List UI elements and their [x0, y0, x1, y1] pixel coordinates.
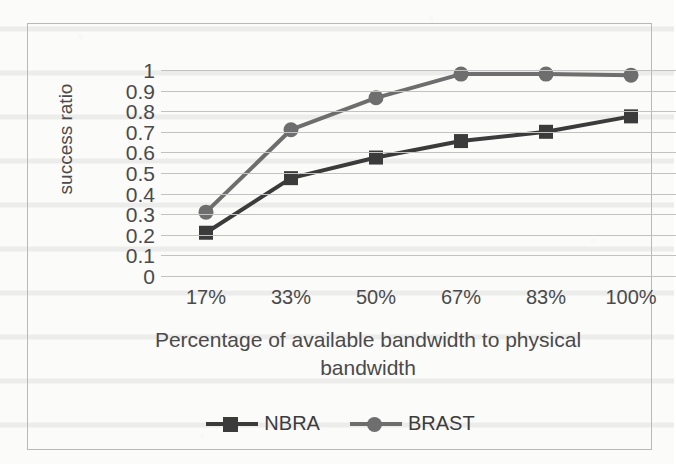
- x-axis-tick-label: 17%: [186, 286, 226, 309]
- gridline: [161, 255, 676, 256]
- gridline: [161, 132, 676, 133]
- chart-legend: NBRABRAST: [28, 412, 653, 435]
- gridline: [161, 152, 676, 153]
- x-axis-tick-label: 100%: [605, 286, 656, 309]
- legend-marker-circle-icon: [367, 417, 382, 432]
- x-axis-tick-label: 33%: [271, 286, 311, 309]
- legend-item-brast[interactable]: BRAST: [350, 412, 475, 435]
- gridline: [161, 235, 676, 236]
- y-axis-tick-label: 0.2: [126, 225, 155, 246]
- legend-label: NBRA: [264, 412, 320, 435]
- y-axis-title: success ratio: [55, 64, 77, 214]
- y-axis-tick-labels: 10.90.80.70.60.50.40.30.20.10: [100, 57, 155, 289]
- x-axis-tick-labels: 17%33%50%67%83%100%: [161, 286, 676, 316]
- y-axis-tick-label: 0.4: [126, 184, 155, 205]
- legend-label: BRAST: [408, 412, 475, 435]
- plot-area: [161, 70, 676, 276]
- x-axis-tick-label: 67%: [441, 286, 481, 309]
- y-axis-tick-label: 1: [143, 60, 155, 81]
- y-axis-tick-label: 0.7: [126, 122, 155, 143]
- legend-item-nbra[interactable]: NBRA: [206, 412, 320, 435]
- x-axis-tick-label: 83%: [526, 286, 566, 309]
- legend-swatch-nbra-icon: [206, 415, 258, 433]
- x-axis-title-line-1: Percentage of available bandwidth to phy…: [88, 326, 648, 354]
- y-axis-tick-label: 0.3: [126, 204, 155, 225]
- y-axis-tick-label: 0.9: [126, 81, 155, 102]
- x-axis-title-line-2: bandwidth: [88, 354, 648, 382]
- legend-marker-square-icon: [223, 417, 238, 432]
- x-axis-title: Percentage of available bandwidth to phy…: [88, 326, 648, 382]
- y-axis-tick-label: 0.1: [126, 245, 155, 266]
- chart-frame: success ratio 10.90.80.70.60.50.40.30.20…: [27, 23, 652, 450]
- y-axis-tick-label: 0.6: [126, 142, 155, 163]
- gridline: [161, 194, 676, 195]
- y-axis-tick-label: 0: [143, 266, 155, 287]
- gridlines: [161, 70, 676, 276]
- gridline: [161, 111, 676, 112]
- gridline: [161, 91, 676, 92]
- gridline: [161, 173, 676, 174]
- y-axis-tick-label: 0.5: [126, 163, 155, 184]
- x-axis-tick-label: 50%: [356, 286, 396, 309]
- gridline: [161, 70, 676, 71]
- legend-swatch-brast-icon: [350, 415, 402, 433]
- gridline: [161, 276, 676, 277]
- y-axis-tick-label: 0.8: [126, 101, 155, 122]
- gridline: [161, 214, 676, 215]
